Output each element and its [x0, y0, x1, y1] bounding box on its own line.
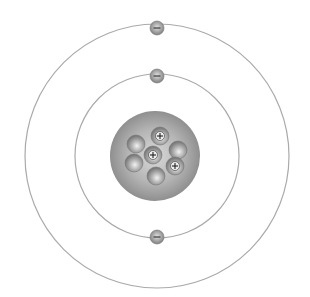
neutron: [147, 167, 165, 185]
electron: [150, 230, 164, 244]
atom-diagram: Bohr model of an atom: [0, 0, 310, 297]
electron: [150, 69, 164, 83]
neutron: [169, 141, 187, 159]
electron: [150, 21, 164, 35]
neutron: [127, 135, 145, 153]
proton: [151, 127, 169, 145]
nucleus: [110, 111, 200, 201]
atom-svg: [0, 0, 310, 297]
proton: [144, 146, 162, 164]
neutron: [125, 154, 143, 172]
proton: [166, 157, 184, 175]
